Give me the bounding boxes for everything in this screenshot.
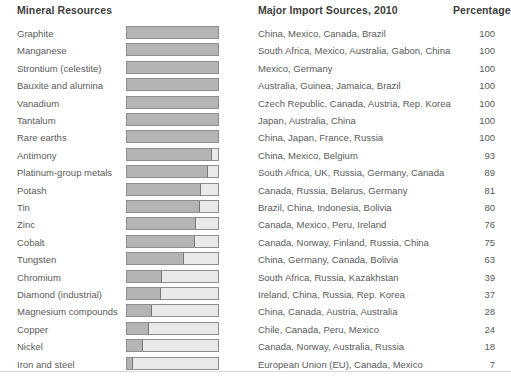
- percentage-bar-track: [126, 270, 219, 283]
- table-row: Magnesium compoundsChina, Canada, Austri…: [0, 305, 511, 324]
- column-header-mineral-resources: Mineral Resources: [17, 4, 112, 16]
- table-row: Strontium (celestite)Mexico, Germany100: [0, 62, 511, 81]
- percentage-bar-fill: [127, 131, 218, 142]
- table-row: NickelCanada, Norway, Australia, Russia1…: [0, 340, 511, 359]
- import-sources: China, Mexico, Belgium: [258, 149, 448, 162]
- percentage-bar-track: [126, 148, 219, 161]
- mineral-name: Antimony: [17, 149, 127, 162]
- percentage-bar-fill: [127, 62, 218, 73]
- import-sources: Australia, Guinea, Jamaica, Brazil: [258, 79, 448, 92]
- mineral-name: Vanadium: [17, 97, 127, 110]
- import-sources: Ireland, China, Russia, Rep. Korea: [258, 288, 448, 301]
- percentage-value: 81: [430, 184, 495, 197]
- percentage-bar-fill: [127, 236, 195, 247]
- import-sources: South Africa, Russia, Kazakhstan: [258, 271, 448, 284]
- import-sources: South Africa, Mexico, Australia, Gabon, …: [258, 44, 448, 57]
- percentage-bar-fill: [127, 149, 212, 160]
- percentage-bar-track: [126, 304, 219, 317]
- percentage-bar-fill: [127, 79, 218, 90]
- percentage-bar-track: [126, 235, 219, 248]
- percentage-value: 63: [430, 253, 495, 266]
- percentage-bar-track: [126, 26, 219, 39]
- table-row: TinBrazil, China, Indonesia, Bolivia80: [0, 201, 511, 220]
- percentage-bar-fill: [127, 97, 218, 108]
- percentage-bar-fill: [127, 305, 152, 316]
- percentage-bar-track: [126, 96, 219, 109]
- table-row: Platinum-group metalsSouth Africa, UK, R…: [0, 166, 511, 185]
- percentage-bar-track: [126, 252, 219, 265]
- percentage-value: 7: [430, 358, 495, 371]
- mineral-name: Copper: [17, 323, 127, 336]
- mineral-name: Iron and steel: [17, 358, 127, 371]
- percentage-value: 100: [430, 79, 495, 92]
- percentage-value: 39: [430, 271, 495, 284]
- percentage-bar-fill: [127, 288, 161, 299]
- percentage-value: 93: [430, 149, 495, 162]
- percentage-value: 100: [430, 97, 495, 110]
- table-header: Mineral Resources Major Import Sources, …: [0, 4, 511, 20]
- table-row: TantalumJapan, Australia, China100: [0, 114, 511, 133]
- import-sources: China, Canada, Austria, Australia: [258, 305, 448, 318]
- table-row: VanadiumCzech Republic, Canada, Austria,…: [0, 97, 511, 116]
- percentage-bar-track: [126, 183, 219, 196]
- mineral-name: Nickel: [17, 340, 127, 353]
- percentage-value: 100: [430, 114, 495, 127]
- mineral-name: Manganese: [17, 44, 127, 57]
- mineral-name: Chromium: [17, 271, 127, 284]
- import-sources: China, Germany, Canada, Bolivia: [258, 253, 448, 266]
- mineral-name: Magnesium compounds: [17, 305, 127, 318]
- import-sources: China, Mexico, Canada, Brazil: [258, 27, 448, 40]
- percentage-bar-track: [126, 357, 219, 370]
- percentage-bar-fill: [127, 44, 218, 55]
- percentage-bar-fill: [127, 358, 133, 369]
- percentage-bar-fill: [127, 201, 200, 212]
- import-sources: Canada, Norway, Australia, Russia: [258, 340, 448, 353]
- percentage-bar-track: [126, 287, 219, 300]
- table-row: Rare earthsChina, Japan, France, Russia1…: [0, 131, 511, 150]
- table-row: PotashCanada, Russia, Belarus, Germany81: [0, 184, 511, 203]
- percentage-bar-track: [126, 339, 219, 352]
- percentage-value: 18: [430, 340, 495, 353]
- percentage-bar-fill: [127, 184, 201, 195]
- table-row: ChromiumSouth Africa, Russia, Kazakhstan…: [0, 271, 511, 290]
- import-sources: Mexico, Germany: [258, 62, 448, 75]
- mineral-name: Diamond (industrial): [17, 288, 127, 301]
- table-row: CobaltCanada, Norway, Finland, Russia, C…: [0, 236, 511, 255]
- percentage-value: 75: [430, 236, 495, 249]
- percentage-value: 37: [430, 288, 495, 301]
- percentage-bar-track: [126, 61, 219, 74]
- percentage-bar-fill: [127, 323, 149, 334]
- table-row: ManganeseSouth Africa, Mexico, Australia…: [0, 44, 511, 63]
- mineral-name: Strontium (celestite): [17, 62, 127, 75]
- table-row: Iron and steelEuropean Union (EU), Canad…: [0, 358, 511, 376]
- percentage-value: 28: [430, 305, 495, 318]
- mineral-name: Bauxite and alumina: [17, 79, 127, 92]
- table-row: ZincCanada, Mexico, Peru, Ireland76: [0, 218, 511, 237]
- mineral-name: Zinc: [17, 218, 127, 231]
- mineral-name: Tin: [17, 201, 127, 214]
- bottom-divider: [0, 371, 511, 372]
- percentage-value: 100: [430, 44, 495, 57]
- import-sources: Brazil, China, Indonesia, Bolivia: [258, 201, 448, 214]
- import-sources: Chile, Canada, Peru, Mexico: [258, 323, 448, 336]
- percentage-bar-track: [126, 200, 219, 213]
- percentage-bar-track: [126, 78, 219, 91]
- percentage-bar-track: [126, 130, 219, 143]
- mineral-name: Cobalt: [17, 236, 127, 249]
- import-sources: Canada, Norway, Finland, Russia, China: [258, 236, 448, 249]
- percentage-bar-track: [126, 217, 219, 230]
- import-sources: Japan, Australia, China: [258, 114, 448, 127]
- table-row: CopperChile, Canada, Peru, Mexico24: [0, 323, 511, 342]
- import-sources: Canada, Mexico, Peru, Ireland: [258, 218, 448, 231]
- percentage-bar-fill: [127, 27, 218, 38]
- percentage-value: 24: [430, 323, 495, 336]
- mineral-name: Tungsten: [17, 253, 127, 266]
- mineral-import-dependency-chart: Mineral Resources Major Import Sources, …: [0, 0, 511, 376]
- percentage-bar-fill: [127, 218, 196, 229]
- mineral-name: Potash: [17, 184, 127, 197]
- table-row: AntimonyChina, Mexico, Belgium93: [0, 149, 511, 168]
- percentage-bar-fill: [127, 253, 184, 264]
- table-row: GraphiteChina, Mexico, Canada, Brazil100: [0, 27, 511, 46]
- table-row: TungstenChina, Germany, Canada, Bolivia6…: [0, 253, 511, 272]
- import-sources: South Africa, UK, Russia, Germany, Canad…: [258, 166, 448, 179]
